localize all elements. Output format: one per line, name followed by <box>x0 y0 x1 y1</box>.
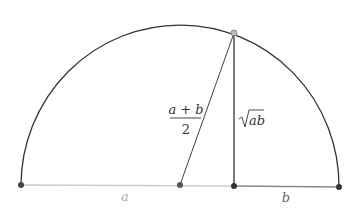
mean-denominator: 2 <box>182 122 190 137</box>
label-b: b <box>282 190 290 205</box>
segment-b <box>234 186 339 187</box>
foot-point <box>231 183 237 189</box>
segment-a <box>21 185 234 186</box>
left-end-point <box>18 182 24 188</box>
right-end-point <box>336 184 342 190</box>
center-point <box>177 182 183 188</box>
top-point <box>231 30 237 36</box>
label-a: a <box>121 189 129 204</box>
sqrt-argument: ab <box>249 113 265 128</box>
am-gm-diagram: a b a + b 2 ab <box>0 0 357 211</box>
mean-numerator: a + b <box>168 102 203 117</box>
